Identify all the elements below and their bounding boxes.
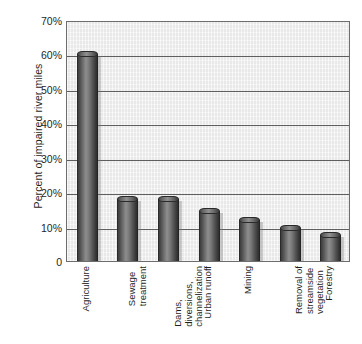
bar-shadow xyxy=(220,213,223,261)
y-axis-tick-labels: 010%20%30%40%50%60%70% xyxy=(22,0,62,344)
x-axis-category-label: Agriculture xyxy=(81,266,92,311)
bar-cap xyxy=(199,208,220,214)
bar[interactable] xyxy=(158,199,179,261)
bar-cap xyxy=(158,196,179,202)
x-axis-category-label-line: Dams, xyxy=(173,266,184,327)
y-axis-tick-label: 20% xyxy=(22,188,62,199)
x-axis-category-label-line: Forestry xyxy=(324,266,335,301)
bar-cap xyxy=(320,232,341,238)
bar-shadow xyxy=(138,201,141,261)
bar[interactable] xyxy=(199,211,220,261)
bar[interactable] xyxy=(320,235,341,261)
y-axis-tick-label: 40% xyxy=(22,119,62,130)
x-axis-category-label: Removal ofstreamsidevegetation xyxy=(294,266,326,314)
x-axis-category-label: Urban runoff xyxy=(203,266,214,319)
y-axis-tick-label: 50% xyxy=(22,85,62,96)
x-axis-category-labels: AgricultureSewagetreatmentDams,diversion… xyxy=(66,264,350,344)
bar[interactable] xyxy=(77,54,98,261)
bar-cap xyxy=(117,196,138,202)
bar-shadow xyxy=(260,222,263,261)
y-axis-tick-label: 0 xyxy=(22,257,62,268)
bar-cap xyxy=(280,225,301,231)
x-axis-category-label: Dams,diversions,channelization xyxy=(173,266,205,327)
x-axis-category-label-line: treatment xyxy=(137,266,148,306)
bar[interactable] xyxy=(239,220,260,261)
bar-cap xyxy=(77,51,98,57)
bar-shadow xyxy=(98,56,101,261)
x-axis-category-label-line: Sewage xyxy=(127,266,138,306)
bar-shadow xyxy=(301,230,304,261)
bar[interactable] xyxy=(117,199,138,261)
y-axis-tick-label: 30% xyxy=(22,154,62,165)
y-axis-tick-label: 10% xyxy=(22,223,62,234)
plot-area xyxy=(66,21,350,262)
bar-shadow xyxy=(341,237,344,261)
bar-chart: Percent of impaired river miles 010%20%3… xyxy=(0,0,362,344)
y-axis-tick-label: 70% xyxy=(22,16,62,27)
y-axis-tick-label: 60% xyxy=(22,50,62,61)
bars-layer xyxy=(67,22,349,261)
bar-shadow xyxy=(179,201,182,261)
x-axis-category-label-line: Urban runoff xyxy=(203,266,214,319)
x-axis-category-label: Mining xyxy=(243,266,254,294)
x-axis-category-label-line: Mining xyxy=(243,266,254,294)
bar[interactable] xyxy=(280,228,301,261)
x-axis-category-label: Sewagetreatment xyxy=(127,266,148,306)
x-axis-category-label-line: Agriculture xyxy=(81,266,92,311)
bar-cap xyxy=(239,217,260,223)
x-axis-category-label: Forestry xyxy=(324,266,335,301)
